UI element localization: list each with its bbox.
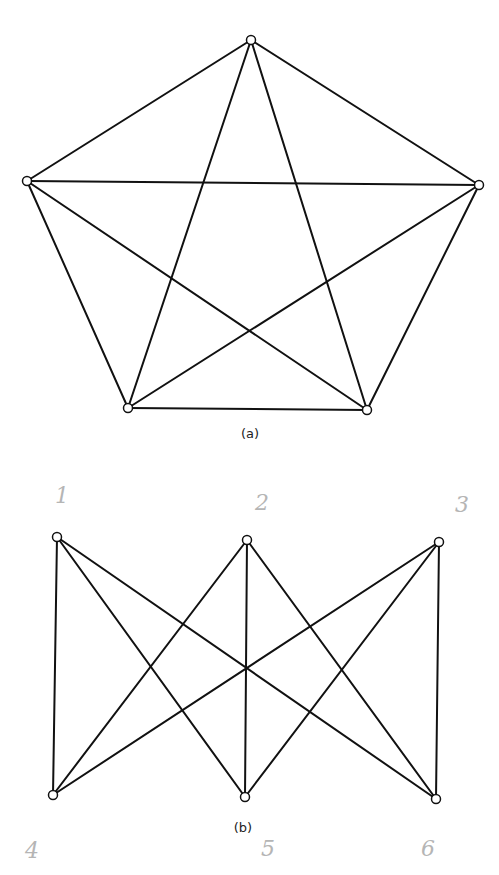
vertex-label: 2 [254, 490, 269, 515]
vertex [49, 791, 58, 800]
vertex-label: 3 [455, 492, 469, 517]
edge [128, 408, 367, 410]
vertex [363, 406, 372, 415]
vertex [432, 795, 441, 804]
edge [53, 540, 247, 795]
edge [53, 537, 57, 795]
edge [251, 40, 367, 410]
vertex [124, 404, 133, 413]
vertex [475, 181, 484, 190]
vertex [247, 36, 256, 45]
graph-b-k33: 123456 [24, 483, 469, 863]
graph-diagrams: (a) 123456 (b) [0, 0, 499, 875]
edge [251, 40, 479, 185]
edge [27, 40, 251, 181]
edge [128, 185, 479, 408]
vertex [23, 177, 32, 186]
vertex-label: 5 [261, 836, 275, 861]
edge [128, 40, 251, 408]
caption-b: (b) [234, 820, 252, 835]
edge [245, 542, 439, 797]
vertex-label: 6 [421, 836, 435, 861]
vertex-label: 1 [55, 483, 69, 508]
graph-a-k5 [23, 36, 484, 415]
edge [367, 185, 479, 410]
edge [27, 181, 479, 185]
edge [436, 542, 439, 799]
vertex [243, 536, 252, 545]
vertex-label: 4 [24, 838, 39, 863]
vertex [241, 793, 250, 802]
caption-a: (a) [241, 426, 259, 441]
vertex [435, 538, 444, 547]
vertex [53, 533, 62, 542]
